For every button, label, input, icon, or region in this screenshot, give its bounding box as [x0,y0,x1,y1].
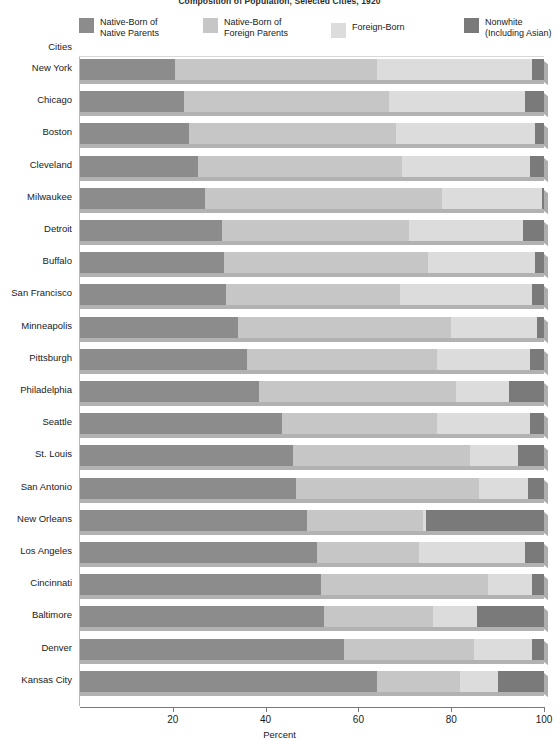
bar-segment[interactable] [282,413,437,434]
stacked-bar[interactable] [80,639,544,660]
bar-segment[interactable] [525,542,544,563]
bar-segment[interactable] [426,510,544,531]
bar-segment[interactable] [80,156,198,177]
bar-segment[interactable] [175,59,377,80]
bar-segment[interactable] [535,123,544,144]
bar-segment[interactable] [80,59,175,80]
bar-segment[interactable] [525,91,544,112]
bar-segment[interactable] [477,606,544,627]
bar-segment[interactable] [317,542,419,563]
stacked-bar[interactable] [80,349,544,370]
bar-segment[interactable] [460,671,497,692]
bar-segment[interactable] [184,91,388,112]
stacked-bar[interactable] [80,59,544,80]
bar-segment[interactable] [456,381,509,402]
bar-segment[interactable] [226,284,400,305]
legend-item-foreign-born[interactable]: Foreign-Born [331,22,405,38]
stacked-bar[interactable] [80,123,544,144]
bar-segment[interactable] [532,639,544,660]
bar-segment[interactable] [423,510,425,531]
bar-segment[interactable] [307,510,423,531]
bar-segment[interactable] [198,156,402,177]
bar-segment[interactable] [396,123,535,144]
stacked-bar[interactable] [80,252,544,273]
legend-item-nonwhite[interactable]: Nonwhite (Including Asian) [464,17,552,38]
bar-segment[interactable] [470,445,519,466]
stacked-bar[interactable] [80,542,544,563]
bar-segment[interactable] [80,317,238,338]
bar-segment[interactable] [80,445,293,466]
bar-segment[interactable] [80,252,224,273]
legend-item-native-born-native-parents[interactable]: Native-Born of Native Parents [79,17,159,38]
bar-segment[interactable] [528,478,544,499]
bar-segment[interactable] [532,59,544,80]
bar-segment[interactable] [259,381,456,402]
bar-segment[interactable] [509,381,544,402]
bar-segment[interactable] [296,478,479,499]
bar-segment[interactable] [247,349,437,370]
bar-segment[interactable] [530,413,544,434]
bar-segment[interactable] [400,284,532,305]
bar-segment[interactable] [451,317,537,338]
bar-segment[interactable] [530,349,544,370]
bar-segment[interactable] [537,317,544,338]
stacked-bar[interactable] [80,606,544,627]
bar-segment[interactable] [80,478,296,499]
bar-segment[interactable] [80,639,344,660]
bar-segment[interactable] [80,220,222,241]
stacked-bar[interactable] [80,156,544,177]
bar-segment[interactable] [80,188,205,209]
bar-segment[interactable] [321,574,488,595]
bar-segment[interactable] [419,542,526,563]
stacked-bar[interactable] [80,381,544,402]
bar-segment[interactable] [80,123,189,144]
bar-segment[interactable] [205,188,442,209]
bar-segment[interactable] [437,349,530,370]
bar-segment[interactable] [80,510,307,531]
stacked-bar[interactable] [80,413,544,434]
bar-segment[interactable] [402,156,530,177]
stacked-bar[interactable] [80,91,544,112]
bar-segment[interactable] [80,349,247,370]
stacked-bar[interactable] [80,671,544,692]
stacked-bar[interactable] [80,284,544,305]
bar-segment[interactable] [389,91,526,112]
bar-segment[interactable] [293,445,469,466]
stacked-bar[interactable] [80,188,544,209]
bar-segment[interactable] [523,220,544,241]
bar-segment[interactable] [224,252,428,273]
stacked-bar[interactable] [80,510,544,531]
legend-item-native-born-foreign-parents[interactable]: Native-Born of Foreign Parents [203,17,288,38]
bar-segment[interactable] [80,413,282,434]
bar-segment[interactable] [437,413,530,434]
bar-segment[interactable] [80,671,377,692]
bar-segment[interactable] [542,188,544,209]
bar-segment[interactable] [518,445,544,466]
bar-segment[interactable] [377,671,461,692]
bar-segment[interactable] [189,123,395,144]
bar-segment[interactable] [80,284,226,305]
bar-segment[interactable] [344,639,474,660]
bar-segment[interactable] [479,478,528,499]
bar-segment[interactable] [80,574,321,595]
bar-segment[interactable] [442,188,542,209]
stacked-bar[interactable] [80,478,544,499]
stacked-bar[interactable] [80,220,544,241]
stacked-bar[interactable] [80,445,544,466]
bar-segment[interactable] [80,91,184,112]
bar-segment[interactable] [498,671,544,692]
bar-segment[interactable] [324,606,433,627]
bar-segment[interactable] [535,252,544,273]
bar-segment[interactable] [532,574,544,595]
stacked-bar[interactable] [80,317,544,338]
bar-segment[interactable] [80,606,324,627]
bar-segment[interactable] [433,606,477,627]
stacked-bar[interactable] [80,574,544,595]
bar-segment[interactable] [222,220,410,241]
bar-segment[interactable] [409,220,523,241]
bar-segment[interactable] [428,252,535,273]
bar-segment[interactable] [80,542,317,563]
bar-segment[interactable] [377,59,532,80]
bar-segment[interactable] [488,574,532,595]
bar-segment[interactable] [532,284,544,305]
